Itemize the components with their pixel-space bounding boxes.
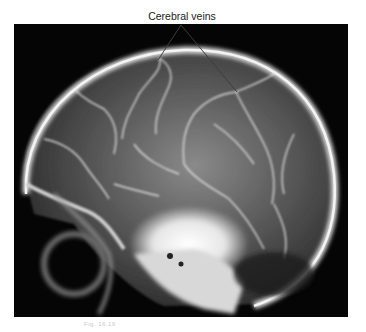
xray-image	[14, 24, 348, 317]
figure-caption: Fig. 16.19	[84, 321, 116, 327]
figure-label: Cerebral veins	[137, 10, 227, 22]
